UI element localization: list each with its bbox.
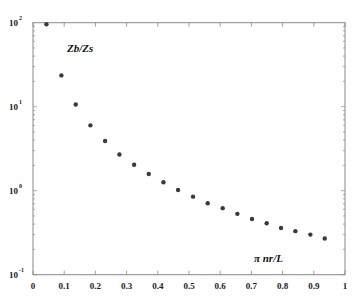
- data-point: [117, 152, 121, 156]
- x-tick-label: 0.6: [215, 281, 227, 291]
- data-point: [308, 232, 312, 236]
- y-tick-label: 10: [9, 18, 19, 28]
- y-tick-label: 10: [9, 186, 19, 196]
- data-point: [147, 172, 151, 176]
- data-point: [220, 206, 224, 210]
- plot-frame: [33, 23, 345, 275]
- data-point: [132, 162, 136, 166]
- x-tick-label: 0.3: [121, 281, 133, 291]
- data-point: [44, 22, 48, 26]
- x-tick-label: 0.9: [308, 281, 320, 291]
- x-tick-label: 0.7: [246, 281, 258, 291]
- x-tick-label: 0.1: [59, 281, 71, 291]
- data-point: [293, 229, 297, 233]
- data-point: [206, 201, 210, 205]
- y-tick-label: 10: [9, 102, 19, 112]
- data-point: [279, 226, 283, 230]
- y-tick-exponent: 0: [19, 183, 22, 189]
- data-series-zb-zs: [44, 22, 327, 241]
- data-point: [74, 102, 78, 106]
- y-axis-label: Zb/Zs: [66, 42, 93, 54]
- x-axis-label: π nr/L: [254, 252, 283, 264]
- data-point: [161, 180, 165, 184]
- y-tick-exponent: 1: [19, 99, 22, 105]
- data-point: [250, 217, 254, 221]
- x-tick-label: 0.4: [152, 281, 164, 291]
- x-tick-label: 1: [343, 281, 348, 291]
- x-tick-label: 0.2: [90, 281, 102, 291]
- data-point: [191, 194, 195, 198]
- chart-canvas: 00.10.20.30.40.50.60.70.80.91 10-1100101…: [0, 0, 360, 302]
- y-tick-label: 10: [9, 270, 19, 280]
- data-point: [59, 73, 63, 77]
- data-point: [235, 212, 239, 216]
- y-tick-exponent: -1: [19, 267, 24, 273]
- data-point: [176, 188, 180, 192]
- axis-ticks: [33, 23, 345, 275]
- data-point: [103, 139, 107, 143]
- x-tick-label: 0.5: [183, 281, 195, 291]
- x-tick-label: 0.8: [277, 281, 289, 291]
- x-tick-label: 0: [31, 281, 36, 291]
- data-point: [323, 236, 327, 240]
- x-axis-tick-labels: 00.10.20.30.40.50.60.70.80.91: [31, 281, 348, 291]
- data-point: [264, 221, 268, 225]
- data-point: [88, 123, 92, 127]
- y-tick-exponent: 2: [19, 15, 22, 21]
- y-axis-tick-labels: 10-1100101102: [9, 15, 24, 280]
